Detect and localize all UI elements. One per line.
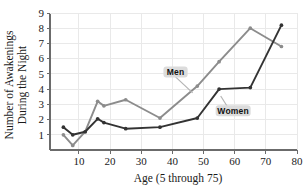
data-point (62, 125, 66, 129)
x-axis-title: Age (5 through 75) (134, 172, 223, 185)
chart-container: 123456789 1020304050607080 MenWomen Age … (0, 0, 306, 186)
data-point (158, 125, 162, 129)
y-tick-label: 9 (39, 7, 45, 19)
data-point (96, 117, 100, 121)
data-point (248, 86, 252, 90)
data-point (102, 104, 106, 108)
data-point (83, 130, 87, 134)
y-tick-label: 2 (39, 113, 45, 125)
data-point (158, 116, 162, 120)
data-point (217, 87, 221, 91)
data-point (124, 98, 128, 102)
data-point (71, 144, 75, 148)
y-tick-label: 7 (39, 37, 45, 49)
y-tick-label: 5 (39, 68, 45, 80)
x-axis-tick-labels: 1020304050607080 (73, 155, 303, 167)
x-tick-label: 30 (136, 155, 148, 167)
line-chart: 123456789 1020304050607080 MenWomen Age … (0, 0, 306, 186)
y-axis-title-line1: Number of Awakenings (3, 30, 16, 139)
data-point (280, 23, 284, 27)
x-tick-label: 40 (167, 155, 179, 167)
y-tick-label: 3 (39, 98, 45, 110)
series-label-women: Women (217, 106, 249, 116)
x-tick-label: 70 (260, 155, 272, 167)
callout-leader-line (176, 77, 193, 93)
x-tick-label: 60 (229, 155, 241, 167)
y-tick-label: 4 (39, 83, 45, 95)
data-point (280, 45, 284, 49)
x-tick-label: 20 (105, 155, 117, 167)
data-point (195, 84, 199, 88)
series-label-men: Men (167, 67, 185, 77)
data-point (62, 133, 66, 137)
x-tick-label: 50 (198, 155, 210, 167)
data-point (195, 116, 199, 120)
data-point (102, 121, 106, 125)
y-tick-label: 6 (39, 52, 45, 64)
y-tick-label: 1 (39, 129, 45, 141)
data-point (71, 133, 75, 137)
x-tick-label: 10 (73, 155, 85, 167)
data-point (248, 26, 252, 30)
y-axis-title-line2: During the Night (16, 45, 29, 124)
data-point (124, 127, 128, 131)
x-tick-label: 80 (292, 155, 304, 167)
y-tick-label: 8 (39, 22, 45, 34)
y-axis-tick-labels: 123456789 (39, 7, 45, 141)
data-point (217, 60, 221, 64)
data-point (96, 99, 100, 103)
